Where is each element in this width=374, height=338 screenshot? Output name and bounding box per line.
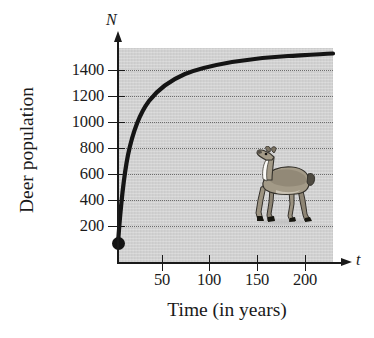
- x-tick-label-200: 200: [280, 271, 330, 288]
- y-tick-1000: [108, 122, 125, 123]
- deer-population-figure: 1400 1200 1000 800 600 400 200 50 100 15…: [0, 0, 374, 338]
- x-axis-arrow: [341, 258, 352, 266]
- y-tick-1200: [108, 96, 125, 97]
- y-tick-600: [108, 174, 125, 175]
- x-axis-title: Time (in years): [92, 300, 362, 320]
- x-axis-variable-label: t: [356, 252, 360, 268]
- y-axis-title: Deer population: [17, 45, 37, 255]
- y-tick-label-1000: 1000: [40, 114, 104, 131]
- y-axis-variable-label: N: [106, 12, 117, 28]
- y-tick-label-200: 200: [40, 218, 104, 235]
- y-tick-200: [108, 226, 125, 227]
- y-tick-400: [108, 200, 125, 201]
- y-tick-1400: [108, 70, 125, 71]
- x-tick-label-100: 100: [184, 271, 234, 288]
- x-tick-50: [162, 255, 163, 271]
- x-tick-label-50: 50: [137, 271, 187, 288]
- x-tick-200: [305, 255, 306, 271]
- y-tick-label-600: 600: [40, 166, 104, 183]
- y-axis-line: [117, 40, 119, 264]
- x-tick-100: [209, 255, 210, 271]
- y-tick-label-1400: 1400: [40, 62, 104, 79]
- y-tick-label-400: 400: [40, 192, 104, 209]
- y-tick-800: [108, 148, 125, 149]
- y-tick-label-1200: 1200: [40, 88, 104, 105]
- x-axis-line: [117, 262, 344, 264]
- x-tick-label-150: 150: [232, 271, 282, 288]
- y-tick-label-800: 800: [40, 140, 104, 157]
- x-tick-150: [257, 255, 258, 271]
- y-axis-arrow: [114, 31, 122, 42]
